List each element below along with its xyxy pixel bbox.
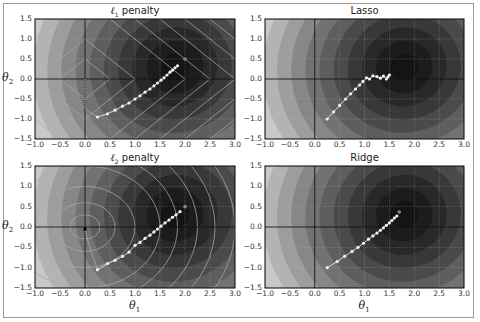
x-tick-label: 2.0 [402, 289, 426, 298]
path-point [156, 81, 159, 84]
x-tick-label: 0.5 [328, 289, 352, 298]
path-point [106, 262, 109, 265]
x-axis-label: θ1 [129, 299, 140, 314]
x-tick-label: 3.0 [452, 289, 476, 298]
path-point [152, 230, 155, 233]
x-tick-label: 2.0 [173, 289, 197, 298]
path-point [356, 246, 359, 249]
x-tick-label: 2.0 [173, 140, 197, 149]
path-point [354, 87, 357, 90]
y-tick-label: 1.5 [240, 14, 262, 23]
path-point [162, 76, 165, 79]
y-tick-label: 1.0 [10, 181, 32, 190]
path-point [382, 75, 385, 78]
path-point [96, 268, 99, 271]
optimum-marker [398, 210, 402, 214]
path-point [386, 75, 389, 78]
x-tick-label: 1.5 [148, 289, 172, 298]
y-tick-label: −0.5 [240, 242, 262, 251]
path-point [171, 216, 174, 219]
path-point [375, 75, 378, 78]
y-tick-label: −1.0 [10, 263, 32, 272]
y-tick-label: 1.0 [240, 34, 262, 43]
x-tick-label: −1.0 [253, 140, 277, 149]
y-tick-label: −1.0 [240, 263, 262, 272]
path-point [358, 83, 361, 86]
path-point [167, 218, 170, 221]
x-tick-label: 2.5 [198, 140, 222, 149]
path-point [121, 255, 124, 258]
subplot-2 [265, 19, 464, 139]
path-point [371, 234, 374, 237]
x-tick-label: 1.5 [377, 140, 401, 149]
path-point [338, 104, 341, 107]
plot-area [35, 166, 235, 288]
y-tick-label: 0.0 [240, 222, 262, 231]
subplot-4 [265, 166, 464, 288]
path-point [163, 221, 166, 224]
path-point [178, 210, 181, 213]
path-point [336, 260, 339, 263]
path-point [367, 238, 370, 241]
path-point [371, 74, 374, 77]
path-point [375, 232, 378, 235]
x-tick-label: 2.0 [402, 140, 426, 149]
subplot-3 [35, 166, 235, 288]
path-point [174, 213, 177, 216]
x-tick-label: 0.0 [303, 289, 327, 298]
x-tick-label: 0.0 [303, 140, 327, 149]
path-point [171, 69, 174, 72]
y-tick-label: 0.5 [10, 202, 32, 211]
path-point [152, 84, 155, 87]
plot-area [265, 19, 464, 139]
path-point [138, 94, 141, 97]
x-tick-label: −1.0 [23, 140, 47, 149]
y-tick-label: −0.5 [240, 94, 262, 103]
y-tick-label: 0.5 [10, 54, 32, 63]
x-tick-label: 2.5 [198, 289, 222, 298]
path-point [148, 87, 151, 90]
path-point [379, 77, 382, 80]
path-point [133, 97, 136, 100]
path-point [390, 219, 393, 222]
path-point [127, 101, 130, 104]
path-point [148, 234, 151, 237]
path-point [106, 112, 109, 115]
path-point [382, 226, 385, 229]
x-tick-label: 1.5 [377, 289, 401, 298]
subplot-1 [35, 19, 235, 139]
path-point [133, 244, 136, 247]
path-point [388, 221, 391, 224]
path-point [362, 242, 365, 245]
plot-area [265, 166, 464, 288]
x-tick-label: 1.0 [353, 289, 377, 298]
path-point [143, 91, 146, 94]
y-tick-label: 0.0 [10, 74, 32, 83]
y-tick-label: 0.0 [10, 222, 32, 231]
x-axis-label: θ1 [359, 299, 370, 314]
y-tick-label: 1.0 [240, 181, 262, 190]
path-point [368, 77, 371, 80]
subplot-title: Lasso [265, 5, 464, 16]
path-point [326, 266, 329, 269]
y-tick-label: −0.5 [10, 94, 32, 103]
path-point [159, 225, 162, 228]
path-point [143, 237, 146, 240]
optimum-marker [183, 57, 187, 61]
y-tick-label: 0.0 [240, 74, 262, 83]
path-point [156, 227, 159, 230]
path-point [393, 216, 396, 219]
x-tick-label: −0.5 [48, 140, 72, 149]
path-point [113, 259, 116, 262]
x-tick-label: 0.5 [98, 289, 122, 298]
x-tick-label: 1.0 [353, 140, 377, 149]
y-tick-label: 0.5 [240, 202, 262, 211]
y-axis-label: θ2 [2, 219, 13, 234]
x-tick-label: 0.5 [98, 140, 122, 149]
x-tick-label: −0.5 [278, 140, 302, 149]
x-tick-label: 1.0 [123, 289, 147, 298]
y-tick-label: 1.5 [10, 161, 32, 170]
x-tick-label: −1.0 [23, 289, 47, 298]
path-point [343, 255, 346, 258]
path-point [176, 64, 179, 67]
